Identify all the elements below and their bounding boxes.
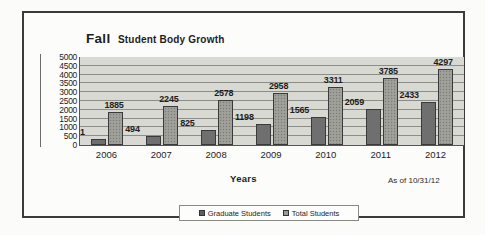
data-label-total-students: 4297 — [434, 57, 453, 67]
x-axis-tick-labels: 2006200720082009201020112012 — [79, 149, 464, 165]
data-label-graduate-students: 825 — [180, 118, 194, 128]
chart-title-remainder: Student Body Growth — [118, 34, 225, 45]
y-axis-tick-labels: 5000450040003500300025002000150010005000 — [43, 52, 77, 151]
x-axis-tick: 2009 — [244, 149, 299, 160]
bar-group: 24334297 — [409, 57, 464, 145]
bar-total-students — [328, 87, 343, 145]
chart-legend: Graduate Students Total Students — [179, 205, 359, 221]
data-label-graduate-students: 494 — [125, 124, 139, 134]
legend-item: Total Students — [283, 209, 340, 218]
legend-swatch-total-icon — [283, 210, 289, 216]
legend-swatch-graduate-icon — [199, 210, 205, 216]
data-label-graduate-students: 1198 — [235, 112, 254, 122]
x-axis-tick: 2011 — [353, 149, 408, 160]
x-axis-tick: 2008 — [189, 149, 244, 160]
y-axis-tick: 0 — [73, 141, 77, 149]
x-axis-tick: 2012 — [408, 149, 463, 160]
data-label-total-students: 3311 — [324, 75, 343, 85]
bar-graduate-students — [421, 102, 436, 145]
bar-graduate-students — [366, 109, 381, 145]
data-label-total-students: 3785 — [379, 66, 398, 76]
chart-page: Fall Student Body Growth 500045004000350… — [0, 0, 485, 235]
bar-group: 11982958 — [245, 57, 300, 145]
y-axis-tick: 1500 — [59, 115, 77, 123]
legend-label-total: Total Students — [292, 209, 340, 218]
bar-group: 20593785 — [354, 57, 409, 145]
bar-total-students — [218, 100, 233, 145]
x-axis-tick: 2010 — [298, 149, 353, 160]
y-axis-tick: 3500 — [59, 79, 77, 87]
data-label-total-students: 2245 — [159, 94, 178, 104]
bar-total-students — [273, 93, 288, 145]
bar-total-students — [383, 78, 398, 145]
y-axis-tick: 3000 — [59, 88, 77, 96]
x-axis-tick: 2006 — [79, 149, 134, 160]
y-axis-outer-rule — [40, 54, 41, 147]
data-label-graduate-students: 2433 — [400, 90, 419, 100]
bar-graduate-students — [91, 139, 106, 145]
data-label-total-students: 2578 — [214, 88, 233, 98]
y-axis-tick: 500 — [64, 132, 77, 140]
y-axis-tick: 5000 — [59, 53, 77, 61]
bar-graduate-students — [146, 136, 161, 145]
plot-area: 3611885494224582525781198295815653311205… — [79, 57, 464, 146]
chart-title-emphasis: Fall — [86, 31, 110, 46]
legend-item: Graduate Students — [199, 209, 271, 218]
x-axis-tick: 2007 — [134, 149, 189, 160]
bar-graduate-students — [201, 130, 216, 145]
bar-graduate-students — [256, 124, 271, 145]
bar-total-students — [438, 69, 453, 145]
chart-title: Fall Student Body Growth — [86, 29, 225, 47]
bar-graduate-students — [311, 117, 326, 145]
bar-total-students — [163, 106, 178, 146]
data-label-total-students: 2958 — [269, 81, 288, 91]
data-label-graduate-students: 1565 — [290, 105, 309, 115]
bar-group: 4942245 — [135, 57, 190, 145]
plot-wrapper: 3611885494224582525781198295815653311205… — [79, 57, 464, 146]
data-label-graduate-students: 361 — [79, 127, 85, 137]
y-axis-tick: 4500 — [59, 62, 77, 70]
y-axis-tick: 1000 — [59, 123, 77, 131]
y-axis-tick: 2500 — [59, 97, 77, 105]
bar-total-students — [108, 112, 123, 145]
y-axis-tick: 2000 — [59, 106, 77, 114]
chart-frame: Fall Student Body Growth 500045004000350… — [22, 11, 465, 218]
legend-label-graduate: Graduate Students — [208, 209, 271, 218]
y-axis-tick: 4000 — [59, 71, 77, 79]
data-label-graduate-students: 2059 — [345, 97, 364, 107]
as-of-annotation: As of 10/31/12 — [388, 176, 440, 185]
bar-group: 8252578 — [190, 57, 245, 145]
data-label-total-students: 1885 — [104, 100, 123, 110]
